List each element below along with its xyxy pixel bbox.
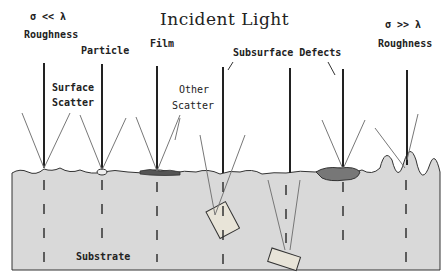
subsurface-defects-label: Subsurface Defects — [233, 47, 341, 59]
right-roughness-label: Roughness — [378, 38, 432, 50]
incident-beams — [44, 63, 407, 173]
other-scatter-label-2: Scatter — [172, 100, 214, 112]
substrate-label: Substrate — [76, 251, 130, 263]
surface-scatter-label-1: Surface — [52, 82, 94, 94]
particle-label: Particle — [81, 45, 129, 57]
film-label: Film — [150, 38, 174, 50]
left-roughness-label: Roughness — [24, 29, 78, 41]
other-scatter-label-1: Other — [179, 84, 209, 96]
surface-scatter-label-2: Scatter — [52, 97, 94, 109]
diagram-title: Incident Light — [160, 9, 289, 29]
right-condition-label: σ >> λ — [385, 19, 421, 31]
scatter-mechanisms-diagram: Incident Light σ << λ Roughness Particle… — [0, 0, 447, 278]
left-condition-label: σ << λ — [30, 11, 66, 23]
surface-defect — [316, 168, 360, 181]
